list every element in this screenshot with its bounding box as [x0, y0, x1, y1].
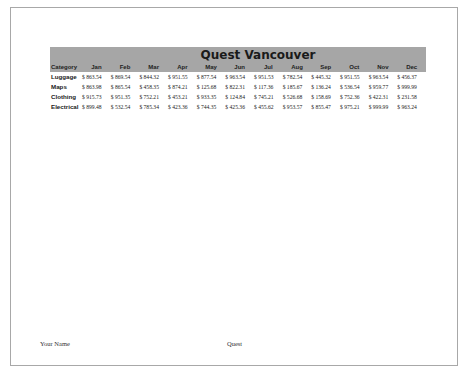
sales-table: Category Jan Feb Mar Apr May Jun Jul Aug…: [50, 63, 426, 112]
cell-value: $ 158.69: [311, 92, 340, 102]
cell-value: $ 975.21: [340, 102, 369, 112]
table-row: Clothing $ 915.73 $ 951.35 $ 752.21 $ 45…: [50, 92, 426, 102]
cell-value: $ 453.21: [168, 92, 197, 102]
cell-value: $ 231.58: [397, 92, 426, 102]
row-category: Maps: [50, 82, 82, 92]
cell-value: $ 782.54: [283, 72, 312, 82]
cell-value: $ 456.37: [397, 72, 426, 82]
cell-value: $ 953.57: [283, 102, 312, 112]
column-header-sep: Sep: [311, 63, 340, 72]
cell-value: $ 877.54: [197, 72, 226, 82]
cell-value: $ 999.99: [369, 102, 398, 112]
column-header-dec: Dec: [397, 63, 426, 72]
column-header-feb: Feb: [111, 63, 140, 72]
table-row: Maps $ 863.98 $ 865.54 $ 458.35 $ 874.21…: [50, 82, 426, 92]
table-row: Luggage $ 863.54 $ 869.54 $ 844.32 $ 951…: [50, 72, 426, 82]
column-header-jul: Jul: [254, 63, 283, 72]
cell-value: $ 422.31: [369, 92, 398, 102]
cell-value: $ 951.55: [168, 72, 197, 82]
cell-value: $ 752.36: [340, 92, 369, 102]
column-header-may: May: [197, 63, 226, 72]
cell-value: $ 999.99: [397, 82, 426, 92]
cell-value: $ 752.21: [139, 92, 168, 102]
cell-value: $ 744.35: [197, 102, 226, 112]
cell-value: $ 933.35: [197, 92, 226, 102]
cell-value: $ 863.98: [82, 82, 111, 92]
cell-value: $ 458.35: [139, 82, 168, 92]
cell-value: $ 855.47: [311, 102, 340, 112]
cell-value: $ 117.36: [254, 82, 283, 92]
column-header-oct: Oct: [340, 63, 369, 72]
cell-value: $ 125.68: [197, 82, 226, 92]
cell-value: $ 844.32: [139, 72, 168, 82]
column-header-aug: Aug: [283, 63, 312, 72]
column-header-apr: Apr: [168, 63, 197, 72]
cell-value: $ 899.48: [82, 102, 111, 112]
cell-value: $ 874.21: [168, 82, 197, 92]
cell-value: $ 951.53: [254, 72, 283, 82]
cell-value: $ 185.67: [283, 82, 312, 92]
row-category: Luggage: [50, 72, 82, 82]
cell-value: $ 536.54: [340, 82, 369, 92]
cell-value: $ 136.24: [311, 82, 340, 92]
column-header-nov: Nov: [369, 63, 398, 72]
cell-value: $ 865.54: [111, 82, 140, 92]
cell-value: $ 425.36: [225, 102, 254, 112]
column-header-jun: Jun: [225, 63, 254, 72]
header-row: Category Jan Feb Mar Apr May Jun Jul Aug…: [50, 63, 426, 72]
column-header-jan: Jan: [82, 63, 111, 72]
cell-value: $ 915.73: [82, 92, 111, 102]
cell-value: $ 963.54: [225, 72, 254, 82]
cell-value: $ 532.54: [111, 102, 140, 112]
footer-center-title: Quest: [227, 340, 242, 347]
spreadsheet-area: Quest Vancouver Category Jan Feb Mar Apr…: [50, 47, 426, 112]
row-category: Clothing: [50, 92, 82, 102]
cell-value: $ 863.54: [82, 72, 111, 82]
cell-value: $ 869.54: [111, 72, 140, 82]
cell-value: $ 951.35: [111, 92, 140, 102]
column-header-mar: Mar: [139, 63, 168, 72]
cell-value: $ 959.77: [369, 82, 398, 92]
cell-value: $ 785.34: [139, 102, 168, 112]
cell-value: $ 963.24: [397, 102, 426, 112]
cell-value: $ 455.62: [254, 102, 283, 112]
cell-value: $ 526.68: [283, 92, 312, 102]
cell-value: $ 822.31: [225, 82, 254, 92]
print-preview-page: Quest Vancouver Category Jan Feb Mar Apr…: [10, 7, 458, 366]
row-category: Electrical: [50, 102, 82, 112]
footer-left-name: Your Name: [40, 340, 70, 347]
sheet-title: Quest Vancouver: [50, 47, 426, 63]
cell-value: $ 951.55: [340, 72, 369, 82]
cell-value: $ 124.84: [225, 92, 254, 102]
cell-value: $ 745.21: [254, 92, 283, 102]
column-header-category: Category: [50, 63, 82, 72]
cell-value: $ 963.54: [369, 72, 398, 82]
table-row: Electrical $ 899.48 $ 532.54 $ 785.34 $ …: [50, 102, 426, 112]
cell-value: $ 445.32: [311, 72, 340, 82]
cell-value: $ 423.36: [168, 102, 197, 112]
